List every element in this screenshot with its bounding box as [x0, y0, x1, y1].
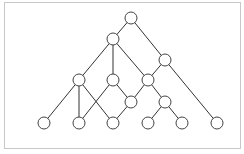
graph-node: [107, 74, 119, 86]
graph-node: [142, 117, 154, 129]
diagram-canvas: [0, 0, 244, 154]
graph-node: [73, 74, 85, 86]
graph-node: [125, 12, 137, 24]
graph-node: [142, 74, 154, 86]
graph-node: [73, 117, 85, 129]
graph-node: [38, 117, 50, 129]
graph-node: [125, 96, 137, 108]
graph-node: [211, 117, 223, 129]
graph-node: [159, 54, 171, 66]
tree-graph: [0, 0, 244, 154]
graph-node: [159, 96, 171, 108]
graph-node: [176, 117, 188, 129]
graph-node: [107, 117, 119, 129]
graph-node: [107, 33, 119, 45]
